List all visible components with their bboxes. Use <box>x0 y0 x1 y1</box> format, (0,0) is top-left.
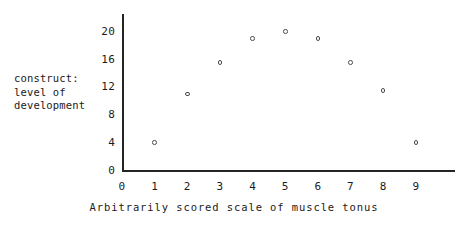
y-tick-20: 20 <box>93 26 115 37</box>
x-tick-7: 7 <box>344 181 358 192</box>
y-tick-16: 16 <box>93 54 115 65</box>
y-tick-0: 0 <box>93 165 115 176</box>
x-tick-6: 6 <box>311 181 325 192</box>
y-tick-4: 4 <box>93 137 115 148</box>
x-axis-line <box>122 170 455 172</box>
data-point <box>381 88 386 93</box>
y-tick-12: 12 <box>93 81 115 92</box>
x-tick-9: 9 <box>409 181 423 192</box>
x-tick-2: 2 <box>180 181 194 192</box>
x-tick-4: 4 <box>246 181 260 192</box>
scatter-plot-figure: construct: level of development 04812162… <box>0 0 468 229</box>
data-point <box>218 60 223 65</box>
data-point <box>152 140 157 145</box>
y-axis-line <box>122 14 124 172</box>
data-point <box>250 36 255 41</box>
x-tick-8: 8 <box>376 181 390 192</box>
data-point <box>414 140 419 145</box>
data-point <box>283 29 288 34</box>
data-point <box>348 60 353 65</box>
y-tick-8: 8 <box>93 109 115 120</box>
x-axis-label: Arbitrarily scored scale of muscle tonus <box>0 201 468 213</box>
data-point <box>316 36 321 41</box>
x-tick-5: 5 <box>278 181 292 192</box>
x-tick-0: 0 <box>115 181 129 192</box>
x-tick-3: 3 <box>213 181 227 192</box>
x-tick-1: 1 <box>148 181 162 192</box>
data-point <box>185 92 190 97</box>
plot-area: 048121620 0123456789 <box>122 14 455 172</box>
